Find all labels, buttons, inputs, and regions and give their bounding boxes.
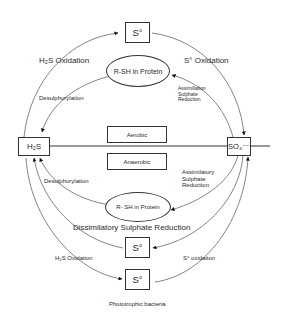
node-rsh-protein-top: R-SH in Protein bbox=[106, 55, 170, 87]
node-s0-middle: S° bbox=[125, 237, 150, 258]
node-s0-top: S° bbox=[125, 22, 150, 43]
label-s0-oxidation-bottom: S° oxidation bbox=[183, 255, 215, 261]
zone-anaerobic: Anaerobic bbox=[107, 153, 167, 170]
node-s0-middle-label: S° bbox=[132, 242, 142, 253]
zone-aerobic: Aerobic bbox=[107, 126, 167, 143]
node-s0-bottom: S° bbox=[125, 269, 150, 290]
arrow-s0-oxidation-top bbox=[152, 33, 244, 135]
arrow-h2s-oxidation-top bbox=[24, 33, 118, 137]
node-rsh-protein-bottom: R- SH in Protein bbox=[105, 192, 171, 222]
label-dissimilatory-sulphate-reduction: Dissimilatory Sulphate Reduction bbox=[73, 224, 190, 232]
label-h2s-oxidation-bottom: H₂S Oxidation bbox=[55, 255, 93, 261]
node-rsh-protein-top-label: R-SH in Protein bbox=[114, 68, 163, 75]
zone-aerobic-label: Aerobic bbox=[127, 132, 147, 138]
label-desulphurylation-top: Desulphurylation bbox=[39, 95, 84, 101]
zone-anaerobic-label: Anaerobic bbox=[123, 159, 150, 165]
node-rsh-protein-bottom-label: R- SH in Protein bbox=[116, 204, 159, 210]
node-so4-label: SO₄⁻⁻ bbox=[228, 142, 250, 151]
node-so4: SO₄⁻⁻ bbox=[227, 137, 251, 156]
arrow-desulphurylation-top bbox=[42, 76, 110, 132]
label-h2s-oxidation-top: H₂S Oxidation bbox=[39, 57, 89, 65]
label-assimillation-sulphate-reduction-top: Assimillation Sulphate Reduction bbox=[178, 86, 206, 103]
label-desulphurylation-bottom: Desulphurylation bbox=[44, 178, 89, 184]
node-h2s: H₂S bbox=[18, 137, 50, 156]
label-s0-oxidation-top: S° Oxidation bbox=[184, 57, 229, 65]
node-s0-top-label: S° bbox=[132, 27, 142, 38]
label-phototrophic-bacteria: Phototrophic bacteria bbox=[109, 301, 166, 307]
node-s0-bottom-label: S° bbox=[132, 274, 142, 285]
node-h2s-label: H₂S bbox=[27, 142, 41, 151]
label-assimilatory-sulphate-reduction-bottom: Assimilatory Sulphate Reduction bbox=[182, 169, 214, 189]
